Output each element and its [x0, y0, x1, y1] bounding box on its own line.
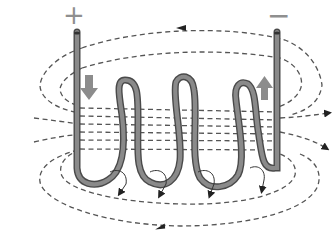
solenoid-svg — [0, 0, 336, 245]
positive-terminal-label: + — [63, 2, 85, 28]
field-arrow-top — [176, 25, 186, 31]
solenoid-diagram: + − — [0, 0, 336, 245]
negative-terminal-label: − — [267, 2, 290, 30]
wire-end-left — [74, 31, 80, 34]
curl-4 — [250, 167, 264, 190]
field-exit-upper — [280, 113, 328, 118]
current-in-arrow-down-icon — [80, 75, 98, 100]
field-enter-lower — [34, 134, 80, 142]
field-exit-lower — [280, 132, 326, 148]
field-enter-upper — [34, 118, 80, 124]
current-out-arrow-up-icon — [256, 76, 273, 100]
solenoid-coil — [74, 31, 280, 186]
